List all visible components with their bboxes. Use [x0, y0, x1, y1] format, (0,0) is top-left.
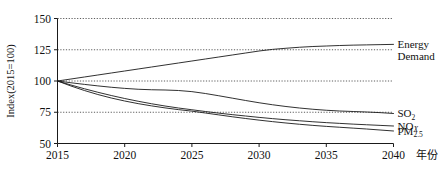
y-tick-label-150: 150 — [34, 13, 52, 25]
x-tick-label-2025: 2025 — [180, 149, 203, 161]
x-tick-label-2015: 2015 — [46, 149, 69, 161]
series-label-energy-demand-line1: Energy — [398, 38, 430, 50]
pm-subscript: 2.5 — [413, 130, 423, 139]
x-tick-label-2020: 2020 — [113, 149, 136, 161]
energy-demand-emissions-index-chart: 5075100125150 201520202025203020352040 I… — [0, 0, 448, 176]
so2-main-text: SO — [398, 107, 412, 119]
x-axis-title: 年份 — [416, 148, 438, 161]
y-axis-title: Index(2015=100) — [5, 44, 17, 118]
x-tick-label-2035: 2035 — [315, 149, 338, 161]
x-tick-label-2030: 2030 — [248, 149, 271, 161]
y-tick-label-75: 75 — [40, 106, 52, 118]
pm-main-text: PM — [398, 125, 414, 137]
y-tick-label-100: 100 — [34, 75, 52, 87]
series-label-energy-demand-line2: Demand — [398, 50, 436, 62]
x-tick-label-2040: 2040 — [382, 149, 405, 161]
y-tick-label-125: 125 — [34, 44, 52, 56]
